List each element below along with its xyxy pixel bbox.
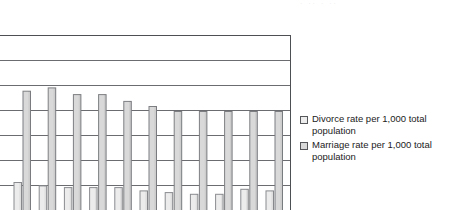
chart-legend: Divorce rate per 1,000 total population … (300, 113, 452, 165)
chart-figure: · ·· · ·· Divorce rate per 1,000 total p… (0, 0, 457, 210)
legend-label-divorce: Divorce rate per 1,000 total population (312, 113, 450, 136)
legend-swatch-marriage (300, 142, 308, 150)
legend-item-divorce[interactable]: Divorce rate per 1,000 total population (300, 113, 452, 136)
legend-swatch-divorce (300, 116, 308, 124)
plot-area (0, 35, 291, 210)
bar-chart-svg (0, 35, 291, 210)
top-edge-text-remnant: · ·· · ·· (300, 0, 457, 7)
legend-item-marriage[interactable]: Marriage rate per 1,000 total population (300, 139, 452, 162)
legend-label-marriage: Marriage rate per 1,000 total population (312, 139, 450, 162)
